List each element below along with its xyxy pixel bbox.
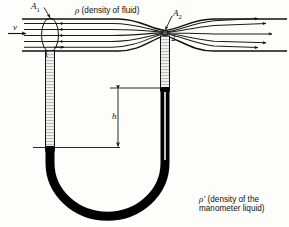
- u-bend-liquid: [50, 88, 165, 216]
- left-tube-glass: [46, 51, 55, 151]
- throat-cross-section-ellipse: [162, 30, 168, 35]
- venturi-manometer-figure: A1 A2 v 1 2 h ρ (density of fluid) ρ′ (d…: [0, 0, 289, 227]
- station-one-label: 1: [44, 49, 49, 59]
- diagram-canvas: [0, 0, 289, 227]
- velocity-label: v: [13, 22, 17, 32]
- inlet-area-label: A1: [31, 1, 40, 13]
- throat-area-leader: [166, 16, 173, 30]
- height-label: h: [112, 111, 117, 121]
- right-tube-glass: [161, 36, 170, 91]
- throat-area-label: A2: [173, 8, 182, 20]
- station-two-label: 2: [171, 33, 176, 43]
- right-liquid-surface: [161, 87, 170, 90]
- fluid-density-label: ρ (density of fluid): [75, 5, 139, 15]
- manometer-density-label: ρ′ (density of themanometer liquid): [199, 194, 265, 213]
- manometer-tube: [46, 36, 170, 216]
- inlet-area-leader: [44, 8, 50, 18]
